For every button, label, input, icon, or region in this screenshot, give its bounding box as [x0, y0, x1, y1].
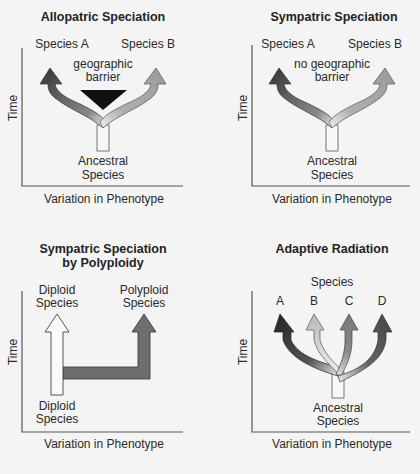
y-axis-label: Time: [6, 339, 20, 366]
panel-title-line1: Sympatric Speciation: [39, 242, 166, 256]
speciation-figure: Allopatric Speciation Species A Species …: [0, 0, 420, 474]
species-a-label: Species A: [261, 37, 314, 51]
panel-allopatric: Allopatric Speciation Species A Species …: [6, 10, 183, 206]
x-axis-label: Variation in Phenotype: [44, 192, 164, 206]
panel-title-line2: by Polyploidy: [62, 256, 143, 270]
ancestral-label-1: Ancestral: [313, 401, 363, 415]
ancestral-stem: [326, 125, 338, 151]
species-a-label: Species A: [35, 37, 88, 51]
species-label-a: A: [276, 294, 284, 308]
barrier-label-1: no geographic: [294, 57, 370, 71]
ancestral-stem: [97, 125, 109, 151]
diploid-arrow: [45, 314, 69, 395]
panel-title: Sympatric Speciation: [270, 10, 397, 24]
species-c-arrow: [336, 314, 358, 376]
species-label-b: B: [310, 294, 318, 308]
bottom-label-2: Species: [36, 412, 79, 426]
top-left-label-2: Species: [36, 296, 79, 310]
y-axis-label: Time: [6, 95, 20, 122]
panel-title: Allopatric Speciation: [41, 10, 165, 24]
polyploid-arrow: [63, 314, 156, 379]
species-header: Species: [311, 275, 354, 289]
bottom-label-1: Diploid: [39, 399, 76, 413]
top-right-label-1: Polyploid: [120, 283, 169, 297]
y-axis-label: Time: [236, 95, 250, 122]
species-a-arrow: [274, 314, 340, 376]
species-label-c: C: [345, 294, 354, 308]
panel-sympatric: Sympatric Speciation Species A Species B…: [236, 10, 410, 206]
x-axis-label: Variation in Phenotype: [44, 437, 164, 451]
ancestral-label-2: Species: [311, 168, 354, 182]
y-axis-label: Time: [236, 339, 250, 366]
species-label-d: D: [378, 294, 387, 308]
ancestral-label-2: Species: [82, 168, 125, 182]
species-b-label: Species B: [348, 37, 402, 51]
top-right-label-2: Species: [123, 296, 166, 310]
barrier-label-1: geographic: [73, 57, 132, 71]
species-b-label: Species B: [121, 37, 175, 51]
ancestral-label-1: Ancestral: [307, 154, 357, 168]
barrier-label-2: barrier: [86, 70, 121, 84]
ancestral-label-1: Ancestral: [78, 154, 128, 168]
panel-polyploidy: Sympatric Speciation by Polyploidy Diplo…: [6, 242, 183, 451]
top-left-label-1: Diploid: [39, 283, 76, 297]
panel-adaptive: Adaptive Radiation Species A B C D Time …: [236, 242, 410, 451]
ancestral-label-2: Species: [317, 414, 360, 428]
barrier-label-2: barrier: [315, 70, 350, 84]
x-axis-label: Variation in Phenotype: [272, 437, 392, 451]
x-axis-label: Variation in Phenotype: [272, 192, 392, 206]
panel-title: Adaptive Radiation: [275, 242, 388, 256]
